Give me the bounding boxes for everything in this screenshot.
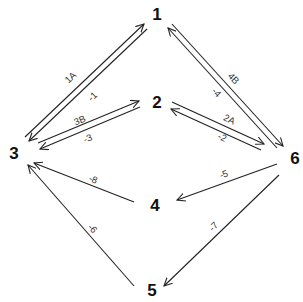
edge-label: -5 — [218, 167, 230, 180]
edge-5-to-3 — [28, 165, 134, 286]
edge-label: -7 — [206, 219, 220, 233]
node-1: 1 — [152, 5, 161, 24]
edge-1-to-3 — [29, 29, 147, 141]
node-2: 2 — [152, 93, 161, 112]
edge-label: -3 — [82, 131, 94, 144]
edge-label: 3B — [72, 113, 87, 128]
edge-4-to-3 — [34, 163, 134, 202]
node-5: 5 — [147, 281, 156, 300]
node-6: 6 — [290, 149, 299, 168]
edge-label: 1A — [62, 69, 78, 85]
node-3: 3 — [9, 144, 18, 163]
edge-label: 4B — [226, 70, 242, 86]
edges-layer — [25, 24, 283, 286]
edge-6-to-4 — [177, 164, 277, 200]
directed-graph: 1A-13B-34B-42A-2-5-7-8-6 123456 — [0, 0, 303, 302]
edge-label: 2A — [222, 112, 238, 127]
edge-label: -8 — [87, 172, 99, 185]
edge-label: -2 — [216, 130, 228, 144]
nodes-layer: 123456 — [9, 5, 299, 300]
edge-label: -1 — [85, 89, 99, 103]
node-4: 4 — [150, 196, 160, 215]
edge-6-to-5 — [164, 175, 279, 286]
